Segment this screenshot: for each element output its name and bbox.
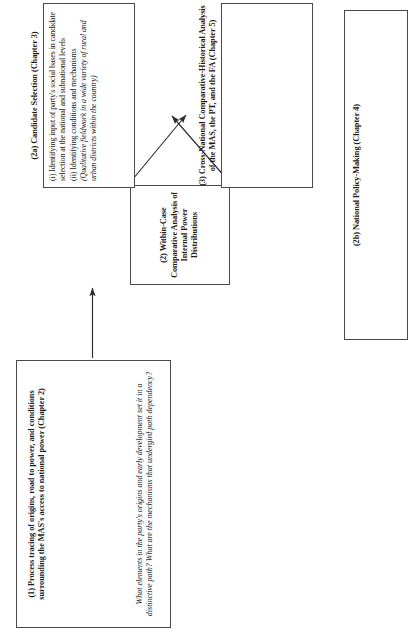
node-process-tracing-title: (1) Process tracing of origins, road to … (27, 368, 48, 620)
node-cross-national-analysis[interactable]: (2b) National Policy-Making (Chapter 4) (344, 10, 408, 340)
node-candidate-selection-title: (2a) Candidate Selection (Chapter 3) (30, 3, 40, 188)
node-within-case-analysis-title: (2) Within-Case Comparative Analysis of … (159, 191, 200, 279)
arrow-2-to-2b (128, 115, 186, 185)
node-cross-national-analysis-title: (2b) National Policy-Making (Chapter 4) (352, 18, 362, 332)
node-national-policy-making-title: (3) Cross-National Comparative-Historica… (198, 3, 218, 188)
node-candidate-selection[interactable]: (2a) Candidate Selection (Chapter 3) (i)… (30, 3, 135, 188)
list-item: (i) Identifying input of party's social … (48, 10, 69, 181)
diagram-canvas: (1) Process tracing of origins, road to … (0, 0, 419, 640)
list-item: (ii) Identifying conditions and mechanis… (69, 10, 79, 181)
list-item: (Qualitative fieldwork in a wide variety… (79, 10, 100, 181)
node-national-policy-making-list (221, 3, 313, 188)
node-national-policy-making[interactable]: (3) Cross-National Comparative-Historica… (198, 3, 313, 188)
node-candidate-selection-list: (i) Identifying input of party's social … (43, 3, 135, 188)
node-within-case-analysis[interactable]: (2) Within-Case Comparative Analysis of … (130, 185, 230, 285)
node-process-tracing-question: What elements in the party's origins and… (135, 368, 156, 620)
node-process-tracing[interactable]: (1) Process tracing of origins, road to … (16, 360, 171, 628)
